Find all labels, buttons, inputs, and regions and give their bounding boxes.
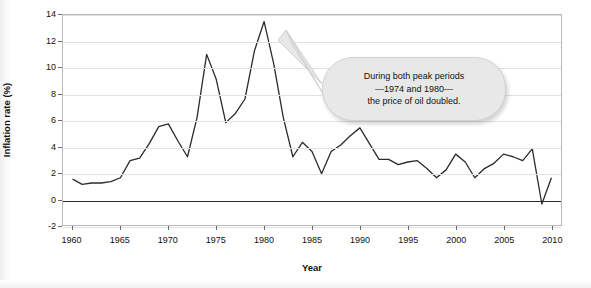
annotation-line-1: During both peak periods <box>364 70 465 83</box>
annotation-line-2: —1974 and 1980— <box>375 83 453 96</box>
x-tick-label: 1965 <box>110 235 130 245</box>
x-tick-label: 1985 <box>302 235 322 245</box>
y-tick-mark <box>58 226 62 227</box>
y-tick-mark <box>58 173 62 174</box>
y-tick-label: 8 <box>34 89 56 99</box>
y-tick-mark <box>58 147 62 148</box>
y-tick-label: 0 <box>34 195 56 205</box>
x-tick-label: 1975 <box>206 235 226 245</box>
x-tick-mark <box>360 226 361 230</box>
x-tick-label: 2005 <box>494 235 514 245</box>
x-tick-label: 1995 <box>398 235 418 245</box>
y-tick-label: 14 <box>34 9 56 19</box>
gridline <box>63 42 561 43</box>
x-tick-label: 2010 <box>542 235 562 245</box>
x-tick-mark <box>552 226 553 230</box>
y-tick-mark <box>58 67 62 68</box>
y-tick-mark <box>58 14 62 15</box>
x-tick-mark <box>168 226 169 230</box>
x-tick-mark <box>456 226 457 230</box>
x-tick-label: 1970 <box>158 235 178 245</box>
annotation-line-3: the price of oil doubled. <box>367 95 460 108</box>
y-tick-mark <box>58 94 62 95</box>
annotation-callout-text: During both peak periods —1974 and 1980—… <box>323 58 505 120</box>
annotation-callout-bubble: During both peak periods —1974 and 1980—… <box>322 57 506 121</box>
x-tick-mark <box>312 226 313 230</box>
x-tick-mark <box>72 226 73 230</box>
y-tick-label: -2 <box>34 221 56 231</box>
y-tick-label: 12 <box>34 36 56 46</box>
gridline <box>63 121 561 122</box>
y-tick-mark <box>58 41 62 42</box>
x-tick-label: 2000 <box>446 235 466 245</box>
x-tick-label: 1980 <box>254 235 274 245</box>
inflation-rate-chart-figure: Inflation rate (%) Year -202468101214196… <box>0 0 591 288</box>
x-tick-mark <box>216 226 217 230</box>
x-tick-mark <box>408 226 409 230</box>
y-axis-title: Inflation rate (%) <box>1 83 12 157</box>
x-tick-label: 1960 <box>62 235 82 245</box>
y-tick-mark <box>58 200 62 201</box>
y-tick-mark <box>58 120 62 121</box>
y-tick-label: 6 <box>34 115 56 125</box>
y-tick-label: 2 <box>34 168 56 178</box>
inflation-line-series <box>63 15 561 225</box>
x-tick-label: 1990 <box>350 235 370 245</box>
page-edge-shading-bottom <box>0 280 591 288</box>
x-tick-mark <box>504 226 505 230</box>
plot-area <box>62 14 562 226</box>
x-axis-title: Year <box>302 262 322 273</box>
x-tick-mark <box>264 226 265 230</box>
y-tick-label: 10 <box>34 62 56 72</box>
y-tick-label: 4 <box>34 142 56 152</box>
gridline <box>63 15 561 16</box>
gridline <box>63 148 561 149</box>
gridline <box>63 174 561 175</box>
x-tick-mark <box>120 226 121 230</box>
zero-axis-line <box>63 201 561 202</box>
